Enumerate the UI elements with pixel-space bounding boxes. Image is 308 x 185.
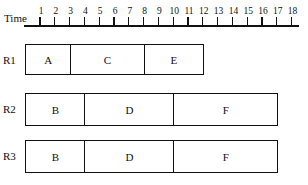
tick-label: 12 xyxy=(199,6,209,16)
task-label: B xyxy=(52,104,59,116)
tick-mark xyxy=(232,17,233,26)
tick-label: 5 xyxy=(98,6,103,16)
task-block-d: D xyxy=(84,140,174,173)
tick-label: 14 xyxy=(229,6,239,16)
tick-mark xyxy=(217,17,218,26)
row-label-r3: R3 xyxy=(3,150,16,162)
task-label: D xyxy=(126,104,134,116)
tick-mark xyxy=(247,17,248,26)
task-label: F xyxy=(223,151,229,163)
tick-mark xyxy=(261,17,262,26)
task-label: F xyxy=(223,104,229,116)
tick-label: 15 xyxy=(243,6,253,16)
task-block-d: D xyxy=(84,93,174,126)
task-block-b: B xyxy=(25,93,86,126)
tick-mark xyxy=(99,17,100,26)
task-block-c: C xyxy=(70,44,146,75)
tick-label: 13 xyxy=(214,6,224,16)
tick-mark xyxy=(202,17,203,26)
tick-mark xyxy=(128,17,129,26)
tick-label: 2 xyxy=(53,6,58,16)
tick-label: 7 xyxy=(127,6,132,16)
task-label: C xyxy=(104,54,111,66)
tick-label: 18 xyxy=(288,6,298,16)
task-block-f: F xyxy=(173,140,278,173)
tick-label: 6 xyxy=(113,6,118,16)
tick-mark xyxy=(39,17,40,26)
tick-mark xyxy=(113,17,114,26)
task-block-a: A xyxy=(25,44,71,75)
tick-label: 1 xyxy=(39,6,44,16)
tick-mark xyxy=(143,17,144,26)
tick-label: 10 xyxy=(169,6,179,16)
task-label: D xyxy=(126,151,134,163)
tick-mark xyxy=(54,17,55,26)
task-label: E xyxy=(171,54,178,66)
tick-label: 9 xyxy=(157,6,162,16)
tick-mark xyxy=(84,17,85,26)
task-label: B xyxy=(52,151,59,163)
tick-label: 16 xyxy=(258,6,268,16)
tick-mark xyxy=(187,17,188,26)
tick-mark xyxy=(158,17,159,26)
tick-mark xyxy=(69,17,70,26)
tick-label: 8 xyxy=(142,6,147,16)
tick-label: 11 xyxy=(184,6,193,16)
tick-mark xyxy=(173,17,174,26)
tick-label: 17 xyxy=(273,6,283,16)
tick-label: 3 xyxy=(68,6,73,16)
task-block-e: E xyxy=(144,44,205,75)
time-axis-label: Time xyxy=(4,12,27,24)
task-block-f: F xyxy=(173,93,278,126)
tick-mark xyxy=(291,17,292,26)
row-label-r1: R1 xyxy=(3,54,16,66)
task-label: A xyxy=(44,54,52,66)
tick-mark xyxy=(276,17,277,26)
time-axis-line xyxy=(24,25,299,27)
row-label-r2: R2 xyxy=(3,103,16,115)
tick-label: 4 xyxy=(83,6,88,16)
task-block-b: B xyxy=(25,140,86,173)
